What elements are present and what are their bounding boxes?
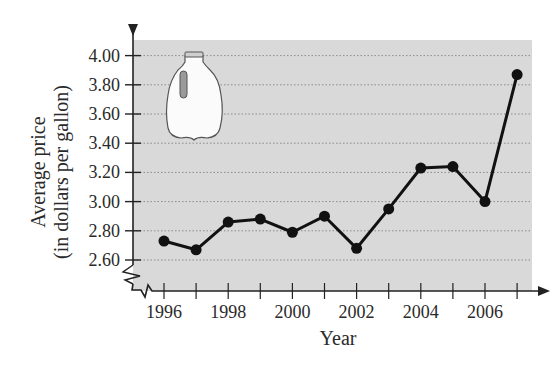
data-point (319, 211, 330, 222)
data-point (159, 236, 170, 247)
y-tick-label: 3.40 (89, 133, 121, 153)
y-axis-title-line-2: (in dollars per gallon) (50, 85, 73, 259)
y-tick-label: 4.00 (89, 46, 121, 66)
y-tick-label: 2.60 (89, 250, 121, 270)
data-point (480, 196, 491, 207)
data-point (512, 69, 523, 80)
data-point (223, 217, 234, 228)
y-tick-label: 3.00 (89, 192, 121, 212)
y-tick-label: 3.60 (89, 104, 121, 124)
x-tick-label: 1996 (146, 302, 182, 322)
x-tick-label: 2004 (403, 302, 439, 322)
x-tick-label: 2002 (339, 302, 375, 322)
data-point (383, 203, 394, 214)
x-axis-title: Year (320, 327, 357, 350)
y-tick-label: 3.80 (89, 75, 121, 95)
x-tick-label: 2006 (467, 302, 503, 322)
x-axis-arrow-icon (538, 286, 550, 296)
data-point (415, 163, 426, 174)
data-point (287, 227, 298, 238)
x-tick-label: 2000 (274, 302, 310, 322)
x-tick-label: 1998 (210, 302, 246, 322)
y-tick-label: 2.80 (89, 221, 121, 241)
line-chart: 2.602.803.003.203.403.603.804.0019961998… (0, 0, 558, 366)
y-axis-title-line-1: Average price (27, 85, 50, 259)
data-point (191, 244, 202, 255)
data-point (351, 243, 362, 254)
y-tick-label: 3.20 (89, 162, 121, 182)
y-axis-arrow-icon (128, 24, 138, 36)
data-point (255, 214, 266, 225)
data-point (447, 161, 458, 172)
